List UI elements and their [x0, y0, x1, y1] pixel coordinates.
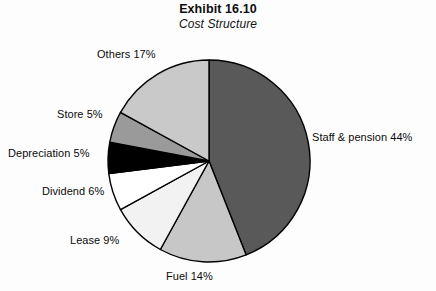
slice-label-store: Store 5% — [57, 108, 103, 120]
pie-canvas — [0, 0, 436, 291]
pie-chart-figure: Exhibit 16.10 Cost Structure Staff & pen… — [0, 0, 436, 291]
slice-label-lease: Lease 9% — [70, 234, 119, 246]
slice-label-fuel: Fuel 14% — [166, 270, 213, 282]
pie-svg — [0, 0, 436, 291]
slice-label-staff-pension: Staff & pension 44% — [312, 131, 412, 143]
slice-label-others: Others 17% — [97, 48, 156, 60]
slice-label-dividend: Dividend 6% — [42, 185, 104, 197]
slice-label-depreciation: Depreciation 5% — [8, 147, 89, 159]
